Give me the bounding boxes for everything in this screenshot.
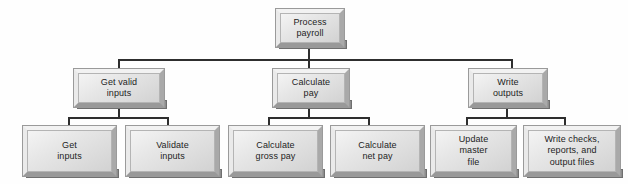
connector-subbus-outputs: [466, 117, 566, 119]
node-label: Validate inputs: [154, 140, 191, 163]
connector-subbus-pay: [268, 117, 370, 119]
node-validate-inputs[interactable]: Validate inputs: [125, 125, 220, 177]
node-label: Calculate net pay: [356, 140, 398, 163]
node-calculate-gross-pay[interactable]: Calculate gross pay: [228, 125, 323, 177]
node-get-inputs[interactable]: Get inputs: [22, 125, 117, 177]
node-process-payroll[interactable]: Process payroll: [275, 8, 345, 48]
node-face: Write checks, reports, and output files: [528, 130, 616, 172]
node-bevel: Calculate net pay: [330, 125, 425, 177]
node-bevel: Write outputs: [468, 68, 548, 108]
node-label: Update master file: [457, 134, 491, 169]
node-face: Calculate gross pay: [233, 130, 318, 172]
node-face: Process payroll: [280, 13, 340, 43]
node-update-master-file[interactable]: Update master file: [430, 125, 517, 177]
node-calculate-pay[interactable]: Calculate pay: [272, 68, 350, 108]
node-bevel: Validate inputs: [125, 125, 220, 177]
node-face: Get inputs: [27, 130, 112, 172]
node-write-outputs[interactable]: Write outputs: [468, 68, 548, 108]
node-label: Process payroll: [291, 17, 328, 40]
node-face: Get valid inputs: [78, 73, 160, 103]
connector-subbus-inputs: [68, 117, 169, 119]
node-label: Write checks, reports, and output files: [542, 134, 601, 169]
node-bevel: Process payroll: [275, 8, 345, 48]
node-label: Get inputs: [55, 140, 84, 163]
node-face: Write outputs: [473, 73, 543, 103]
node-label: Get valid inputs: [99, 77, 139, 100]
node-face: Calculate pay: [277, 73, 345, 103]
node-bevel: Get valid inputs: [73, 68, 165, 108]
node-face: Calculate net pay: [335, 130, 420, 172]
node-write-checks-reports-output-files[interactable]: Write checks, reports, and output files: [523, 125, 621, 177]
node-label: Calculate pay: [290, 77, 332, 100]
node-face: Update master file: [435, 130, 512, 172]
node-bevel: Update master file: [430, 125, 517, 177]
node-get-valid-inputs[interactable]: Get valid inputs: [73, 68, 165, 108]
node-bevel: Write checks, reports, and output files: [523, 125, 621, 177]
node-label: Write outputs: [491, 77, 525, 100]
connector-main-bus: [118, 59, 513, 61]
node-bevel: Get inputs: [22, 125, 117, 177]
node-label: Calculate gross pay: [254, 140, 298, 163]
node-bevel: Calculate pay: [272, 68, 350, 108]
structure-chart-diagram: Process payroll Get valid inputs Calcula…: [0, 0, 628, 184]
node-face: Validate inputs: [130, 130, 215, 172]
node-calculate-net-pay[interactable]: Calculate net pay: [330, 125, 425, 177]
node-bevel: Calculate gross pay: [228, 125, 323, 177]
